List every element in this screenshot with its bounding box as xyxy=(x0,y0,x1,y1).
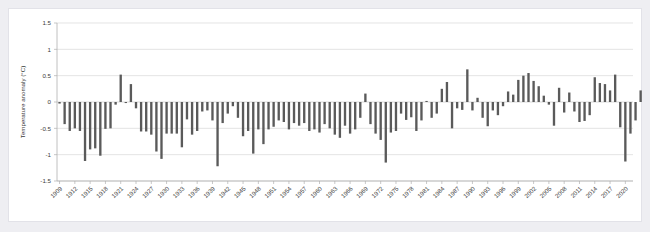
bar xyxy=(517,80,519,102)
bar xyxy=(507,91,509,102)
y-axis-tick-label: -0.5 xyxy=(40,125,51,132)
bar xyxy=(512,95,514,102)
bar xyxy=(589,102,591,115)
bar xyxy=(94,102,96,148)
bar xyxy=(313,102,315,129)
bar xyxy=(160,102,162,159)
bar xyxy=(451,102,453,128)
x-axis-tick-label: 1954 xyxy=(278,184,293,199)
x-axis-tick-label: 1933 xyxy=(171,184,186,199)
x-axis-tick-label: 1927 xyxy=(140,184,155,199)
x-axis-tick-label: 2014 xyxy=(584,184,599,199)
bar xyxy=(522,76,524,102)
chart-svg: 1.510.50-0.5-1-1.5 190919121915191819211… xyxy=(9,9,643,223)
bar xyxy=(298,102,300,126)
bar xyxy=(329,102,331,128)
x-axis-tick-label: 1960 xyxy=(309,184,324,199)
x-axis-tick-label: 1912 xyxy=(64,184,79,199)
bar xyxy=(79,102,81,131)
bar xyxy=(354,102,356,129)
bar xyxy=(624,102,626,162)
bar xyxy=(109,102,111,128)
bar xyxy=(171,102,173,134)
bar xyxy=(308,102,310,131)
x-axis-tick-label: 2002 xyxy=(523,184,538,199)
bar xyxy=(272,102,274,127)
bar xyxy=(436,102,438,114)
bar xyxy=(196,102,198,131)
x-axis-tick-label: 1969 xyxy=(355,184,370,199)
x-axis-tick-label: 1966 xyxy=(339,184,354,199)
bar xyxy=(130,84,132,102)
bar xyxy=(573,102,575,111)
bar xyxy=(359,102,361,118)
bar xyxy=(441,89,443,102)
x-axis-tick-label: 1942 xyxy=(217,184,232,199)
x-axis-tick-label: 1963 xyxy=(324,184,339,199)
bar xyxy=(334,102,336,135)
bar xyxy=(425,101,427,102)
bar xyxy=(604,84,606,102)
y-axis-tick-label: -1.5 xyxy=(40,177,51,184)
bar xyxy=(614,75,616,102)
bar xyxy=(283,102,285,122)
x-axis-tick-label: 1918 xyxy=(95,184,110,199)
bar xyxy=(318,102,320,133)
bar xyxy=(181,102,183,147)
bar xyxy=(339,102,341,138)
x-axis-tick-label: 1975 xyxy=(385,184,400,199)
bar xyxy=(216,102,218,166)
bar xyxy=(400,102,402,114)
x-axis-tick-label: 1987 xyxy=(446,184,461,199)
bar xyxy=(201,102,203,111)
bar xyxy=(583,102,585,121)
bar xyxy=(211,102,213,120)
bar xyxy=(140,102,142,131)
bar xyxy=(69,102,71,131)
bar xyxy=(288,102,290,129)
bar xyxy=(395,102,397,131)
bar xyxy=(380,102,382,140)
bar xyxy=(206,102,208,110)
bar xyxy=(410,102,412,117)
bar xyxy=(221,102,223,123)
x-axis-tick-label: 1921 xyxy=(110,184,125,199)
bar xyxy=(487,102,489,126)
chart-card: 1.510.50-0.5-1-1.5 190919121915191819211… xyxy=(8,8,642,222)
bar xyxy=(430,102,432,118)
x-axis-tick-label: 1909 xyxy=(49,184,64,199)
x-axis-tick-label: 1993 xyxy=(477,184,492,199)
bar xyxy=(262,102,264,144)
bar xyxy=(599,83,601,102)
x-axis-tick-label: 1924 xyxy=(125,184,140,199)
bar xyxy=(323,102,325,124)
bar xyxy=(349,102,351,134)
bar xyxy=(165,102,167,134)
bar xyxy=(120,75,122,102)
x-axis-tick-label: 2011 xyxy=(569,184,584,199)
x-axis-ticks-group: 1909191219151918192119241927193019331936… xyxy=(49,181,630,199)
bar xyxy=(471,102,473,110)
bar xyxy=(466,69,468,102)
bar xyxy=(237,102,239,118)
x-axis-tick-label: 1990 xyxy=(462,184,477,199)
x-axis-tick-label: 1972 xyxy=(370,184,385,199)
bar xyxy=(629,102,631,134)
bar xyxy=(135,102,137,108)
x-axis-tick-label: 1951 xyxy=(263,184,278,199)
bar xyxy=(227,102,229,114)
y-axis-tick-label: 1.5 xyxy=(42,19,51,26)
bar xyxy=(502,102,504,106)
bar xyxy=(374,102,376,134)
bar xyxy=(191,102,193,135)
x-axis-tick-label: 1948 xyxy=(248,184,263,199)
y-axis-ticks-group: 1.510.50-0.5-1-1.5 xyxy=(40,19,57,184)
bar xyxy=(252,102,254,154)
bar xyxy=(594,77,596,102)
bar xyxy=(446,82,448,102)
bar xyxy=(99,102,101,156)
x-axis-tick-label: 1996 xyxy=(492,184,507,199)
bar xyxy=(150,102,152,135)
bar xyxy=(369,102,371,124)
x-axis-tick-label: 2008 xyxy=(553,184,568,199)
